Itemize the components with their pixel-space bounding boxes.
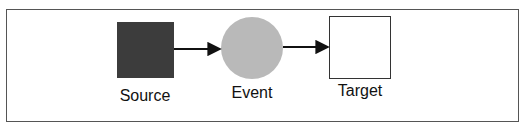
event-label: Event [207, 84, 297, 102]
edges [0, 0, 526, 126]
source-label: Source [100, 87, 190, 105]
target-label: Target [315, 82, 405, 100]
